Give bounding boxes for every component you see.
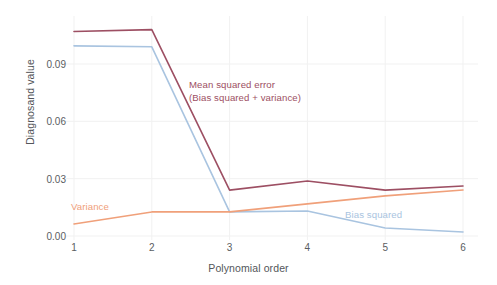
chart-container: Mean squared error (Bias squared + varia… (0, 0, 497, 285)
x-tick-label: 6 (448, 242, 478, 253)
x-tick-label: 4 (292, 242, 322, 253)
x-axis-title: Polynomial order (0, 262, 497, 274)
x-tick-label: 1 (59, 242, 89, 253)
x-axis-ticks: 1 2 3 4 5 6 (0, 0, 497, 285)
x-tick-label: 3 (215, 242, 245, 253)
y-axis-title: Diagnosand value (24, 12, 36, 192)
x-tick-label: 5 (370, 242, 400, 253)
x-tick-label: 2 (137, 242, 167, 253)
